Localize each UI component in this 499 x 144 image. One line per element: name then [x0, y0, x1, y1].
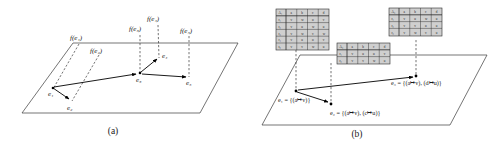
event-equation-e3: e₃ = {(a↦v), (d↦u)}: [391, 79, 442, 87]
t2-r1-label: r₁: [340, 52, 342, 56]
projection-label-f-e3: f(e₃): [129, 25, 142, 33]
panel-a: e₁ e₂ e₃ e₄ e₅ f(e₁) f(e₂) f(e₃) f(e₄) f…: [22, 15, 238, 137]
t3-r2-label: r₂: [392, 24, 394, 28]
relation-table-3: A₃ a b c d r₁ v u w u r₂ v v u u r₃ v w …: [389, 8, 442, 36]
projection-line-e4: [158, 25, 159, 58]
figure-svg: e₁ e₂ e₃ e₄ e₅ f(e₁) f(e₂) f(e₃) f(e₄) f…: [0, 0, 499, 144]
projection-label-f-e4: f(e₄): [147, 15, 160, 23]
node-label-a-e5: e₅: [186, 79, 192, 87]
edge-a-e3-e5: [142, 74, 186, 77]
edge-a-e3-e4: [141, 59, 157, 72]
node-label-a-e3: e₃: [136, 76, 142, 84]
panel-b: e₁ = {(a↦v)} e₂ = {(a↦v), (c↦u)} e₃ = {(…: [262, 8, 487, 140]
figure-container: e₁ e₂ e₃ e₄ e₅ f(e₁) f(e₂) f(e₃) f(e₄) f…: [0, 0, 499, 144]
node-label-a-e4: e₄: [162, 52, 168, 60]
projection-label-f-e2: f(e₂): [90, 47, 103, 55]
node-b-e2: [330, 103, 333, 106]
t2-corner: A₂: [340, 45, 344, 49]
node-a-e3: [139, 72, 142, 75]
t1-r5-label: r₅: [279, 45, 281, 49]
node-label-a-e1: e₁: [48, 90, 54, 98]
edge-a-e1-e2: [53, 88, 69, 99]
plane-a: [22, 43, 238, 113]
t3-corner: A₃: [392, 10, 396, 14]
event-equation-e2: e₂ = {(a↦v), (c↦u)}: [330, 109, 380, 117]
projection-label-f-e1: f(e₁): [70, 34, 83, 42]
node-a-e1: [52, 87, 55, 90]
t1-corner: A₁: [279, 11, 283, 15]
edge-a-e1-e3: [54, 74, 136, 87]
t1-r3-label: r₃: [279, 32, 281, 36]
panel-a-caption: (a): [108, 126, 119, 137]
event-equation-e1: e₁ = {(a↦v)}: [278, 96, 310, 104]
t1-r2-label: r₂: [279, 25, 281, 29]
node-b-e3: [415, 75, 418, 78]
node-label-a-e2: e₂: [67, 104, 73, 112]
projection-line-e1: [53, 44, 79, 89]
panel-b-caption: (b): [351, 129, 362, 140]
t1-r1-label: r₁: [279, 18, 281, 22]
t3-r1-label: r₁: [392, 17, 394, 21]
t2-r2-label: r₂: [340, 59, 342, 63]
node-b-e1: [295, 90, 298, 93]
projection-line-e2: [72, 55, 99, 101]
projection-label-f-e5: f(e₅): [180, 27, 193, 35]
relation-table-1: A₁ a b c d r₁ v w u v r₂ v u w u r₃ v w …: [276, 9, 329, 50]
t3-r3-label: r₃: [392, 31, 394, 35]
relation-table-2: A₂ a b c d r₁ v u u v r₂ v v w u: [337, 43, 390, 64]
